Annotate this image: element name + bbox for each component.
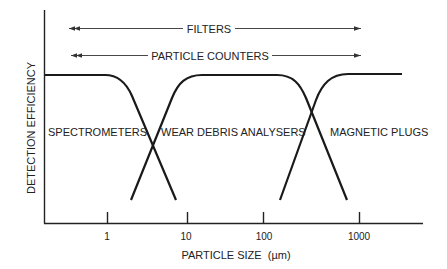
x-tick-label-1000: 1000 [348, 231, 371, 242]
x-tick-label-100: 100 [256, 231, 273, 242]
x-axis-label: PARTICLE SIZE (µm) [181, 249, 290, 261]
y-axis-label: DETECTION EFFICIENCY [25, 61, 37, 194]
spectrometers-label: SPECTROMETERS [48, 126, 147, 138]
x-tick-label-10: 10 [180, 231, 192, 242]
filters-label: FILTERS [187, 23, 231, 35]
particle-detection-diagram: 1 10 100 1000 PARTICLE SIZE (µm) DETECTI… [0, 0, 447, 269]
magnetic-plugs-label: MAGNETIC PLUGS [330, 126, 428, 138]
particle-counters-label: PARTICLE COUNTERS [151, 50, 269, 62]
x-tick-label-1: 1 [104, 231, 110, 242]
wear-debris-label: WEAR DEBRIS ANALYSERS [161, 126, 306, 138]
